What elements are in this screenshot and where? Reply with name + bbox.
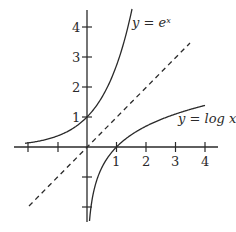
log-curve-label: y = log x: [177, 111, 236, 126]
identity-line: [29, 43, 190, 206]
x-tick-label-2: 2: [142, 154, 150, 169]
function-plot: 1 2 3 4 1 2 3 4 y = eˣ y = log x: [0, 0, 236, 232]
y-tick-label-4: 4: [72, 20, 80, 35]
exp-curve-label: y = eˣ: [131, 15, 171, 30]
y-tick-label-1: 1: [72, 110, 80, 125]
x-tick-label-3: 3: [171, 154, 179, 169]
x-tick-label-1: 1: [112, 154, 120, 169]
y-tick-label-3: 3: [72, 50, 80, 65]
y-tick-label-2: 2: [72, 80, 80, 95]
x-tick-label-4: 4: [201, 154, 209, 169]
